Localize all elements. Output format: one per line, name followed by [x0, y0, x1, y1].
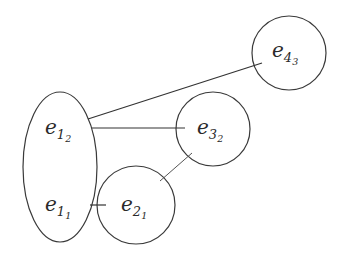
- node-label-e2_1: e21: [121, 192, 147, 221]
- edge-e2_1-e3_2: [160, 153, 192, 181]
- edge-e1_2-e4_3: [88, 63, 262, 119]
- node-label-e1_1: e11: [45, 192, 71, 221]
- node-label-e3_2: e32: [197, 115, 223, 144]
- diagram-canvas: e12 e11 e21 e32 e43: [0, 0, 342, 263]
- node-label-e4_3: e43: [272, 38, 298, 67]
- ellipse-group-e1: [23, 92, 97, 242]
- node-label-e1_2: e12: [45, 115, 71, 144]
